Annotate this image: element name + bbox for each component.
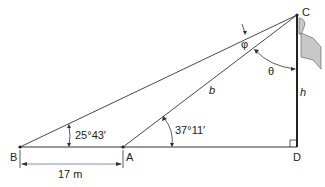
side-h-label: h — [300, 86, 306, 98]
flag-icon — [299, 18, 321, 69]
angle-b-label: 25°43′ — [75, 129, 106, 141]
right-angle-marker — [290, 140, 297, 147]
point-a — [121, 145, 124, 148]
label-d: D — [293, 151, 301, 163]
label-a: A — [126, 151, 134, 163]
angle-a-marker — [162, 116, 174, 147]
point-c — [295, 13, 298, 16]
side-b-label: b — [209, 84, 215, 96]
phi-label: φ — [241, 38, 248, 50]
phi-arrow — [242, 24, 247, 35]
line-ac — [123, 15, 297, 147]
angle-a-label: 37°11′ — [175, 124, 205, 136]
dimension-ba-label: 17 m — [58, 168, 82, 180]
angle-b-marker — [67, 124, 71, 147]
label-c: C — [302, 6, 310, 18]
dimension-ba — [20, 150, 123, 168]
trig-diagram: 25°43′ 37°11′ φ θ b h B A D C 17 m — [0, 0, 325, 187]
line-bc — [20, 15, 297, 147]
point-b — [18, 145, 21, 148]
theta-marker — [254, 49, 296, 71]
label-b: B — [10, 151, 17, 163]
theta-label: θ — [268, 65, 274, 77]
